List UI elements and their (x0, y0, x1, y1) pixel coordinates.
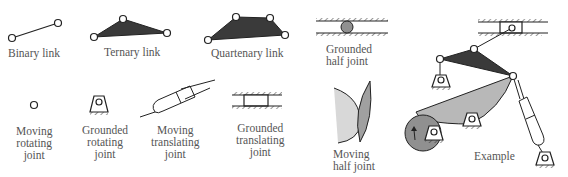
label-moving-translating-joint: Moving translating joint (151, 124, 200, 160)
grounded-translating-joint-symbol (232, 92, 282, 109)
example-mechanism (405, 19, 554, 168)
label-line: rotating (16, 137, 52, 149)
label-line: Grounded (82, 124, 128, 136)
ternary-link-symbol (91, 16, 171, 41)
label-line: translating (236, 134, 285, 146)
binary-link-symbol (9, 20, 62, 42)
label-line: rotating (82, 136, 128, 148)
label-line: Moving (333, 148, 375, 160)
label-line: joint (82, 148, 128, 160)
label-example: Example (474, 150, 515, 162)
label-line: translating (151, 136, 200, 148)
label-line: joint (236, 146, 285, 158)
label-line: half joint (333, 160, 375, 172)
moving-half-joint-symbol (334, 81, 371, 143)
label-moving-rotating-joint: Moving rotating joint (16, 125, 52, 161)
label-line: Moving (16, 125, 52, 137)
grounded-rotating-joint-symbol (90, 96, 108, 115)
grounded-half-joint-symbol (316, 18, 388, 36)
label-line: Grounded (326, 43, 372, 55)
moving-translating-joint-symbol (140, 80, 215, 117)
label-line: Grounded (236, 122, 285, 134)
quartenary-link-symbol (205, 14, 289, 44)
label-line: half joint (326, 55, 372, 67)
label-line: joint (16, 149, 52, 161)
label-quartenary-link: Quartenary link (211, 47, 284, 59)
label-line: Moving (151, 124, 200, 136)
label-line: joint (151, 148, 200, 160)
label-binary-link: Binary link (8, 47, 60, 59)
label-moving-half-joint: Moving half joint (333, 148, 375, 172)
moving-rotating-joint-symbol (31, 102, 38, 109)
label-ternary-link: Ternary link (104, 46, 160, 58)
label-grounded-half-joint: Grounded half joint (326, 43, 372, 67)
label-grounded-translating-joint: Grounded translating joint (236, 122, 285, 158)
label-grounded-rotating-joint: Grounded rotating joint (82, 124, 128, 160)
